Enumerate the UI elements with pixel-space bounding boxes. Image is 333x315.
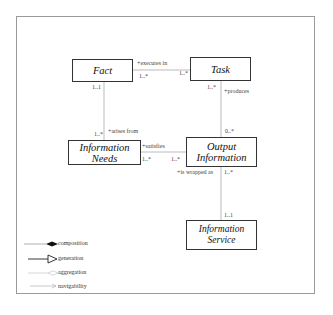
class-name: Fact xyxy=(93,65,112,76)
role-label-is-wrapped-as: +is wrapped as xyxy=(177,169,213,176)
multiplicity-fact-needs: 1..1 xyxy=(92,84,101,91)
legend-label-aggregation: aggregation xyxy=(58,269,86,276)
multiplicity-fact-task: 1..* xyxy=(139,73,148,80)
legend-label-navigability: navigability xyxy=(58,283,87,290)
aggregation-icon xyxy=(24,269,60,277)
class-name: Task xyxy=(211,64,230,75)
class-name: Information Service xyxy=(187,224,256,246)
role-label-executes-in: +executes in xyxy=(137,60,167,67)
multiplicity-needs-fact: 1..* xyxy=(94,131,103,138)
legend-label-generation: generation xyxy=(58,255,83,262)
multiplicity-service-output: 1..1 xyxy=(224,212,233,219)
composition-icon xyxy=(24,240,60,248)
class-name: Information Needs xyxy=(69,142,140,164)
multiplicity-task-output: 1..* xyxy=(207,84,216,91)
class-information-service[interactable]: Information Service xyxy=(186,220,257,250)
class-output-information[interactable]: Output Information xyxy=(186,137,257,167)
generation-icon xyxy=(24,254,60,264)
role-label-arises-from: +arises from xyxy=(108,128,138,135)
legend-label-composition: composition xyxy=(58,240,88,247)
role-label-satisfies: +satisfies xyxy=(142,143,165,150)
class-task[interactable]: Task xyxy=(190,57,251,81)
class-name: Output Information xyxy=(196,141,246,163)
role-label-produces: +produces xyxy=(224,88,249,95)
multiplicity-output-service: 1..* xyxy=(224,169,233,176)
navigability-icon xyxy=(24,282,60,290)
class-fact[interactable]: Fact xyxy=(72,59,133,82)
class-information-needs[interactable]: Information Needs xyxy=(68,140,141,165)
multiplicity-task-fact: 1..* xyxy=(179,70,188,77)
association-links xyxy=(0,0,333,315)
multiplicity-output-needs: 1..* xyxy=(171,156,180,163)
multiplicity-output-task: 0..* xyxy=(225,128,234,135)
multiplicity-needs-output: 1..* xyxy=(142,156,151,163)
